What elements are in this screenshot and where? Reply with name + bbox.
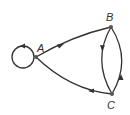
edge-c-b (111, 27, 122, 94)
arrow-icon-a-b (57, 44, 64, 49)
edge-a-a-self-loop (12, 46, 34, 68)
node-label-a: A (36, 42, 44, 54)
node-label-b: B (106, 11, 113, 23)
node-b (109, 25, 113, 29)
node-c (110, 92, 114, 96)
node-label-c: C (107, 99, 115, 111)
edge-b-c (102, 27, 112, 94)
edge-a-b (36, 27, 111, 57)
node-a (34, 55, 38, 59)
directed-graph: A B C (0, 0, 130, 115)
edge-c-a (36, 57, 112, 94)
arrow-icon-a-a (20, 44, 25, 49)
